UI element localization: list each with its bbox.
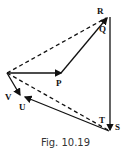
label-v: V	[5, 93, 12, 102]
label-r: R	[97, 7, 104, 16]
vector-diagram	[0, 0, 131, 151]
label-u: U	[19, 103, 26, 112]
label-p: P	[56, 79, 62, 88]
label-t: T	[99, 116, 105, 125]
label-s: S	[115, 123, 120, 132]
label-q: Q	[99, 25, 106, 34]
vector-or-dashed	[7, 18, 106, 73]
vector-su	[25, 97, 109, 131]
figure-caption: Fig. 10.19	[0, 137, 131, 148]
